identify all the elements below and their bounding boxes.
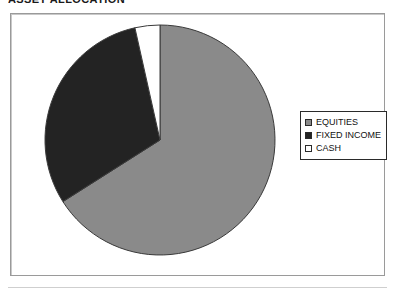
legend-swatch-equities: [305, 119, 312, 126]
legend-item-cash[interactable]: CASH: [305, 142, 381, 155]
legend-swatch-cash: [305, 145, 312, 152]
legend-label-cash: CASH: [316, 142, 341, 155]
chart-legend: EQUITIES FIXED INCOME CASH: [300, 111, 387, 160]
legend-item-equities[interactable]: EQUITIES: [305, 116, 381, 129]
legend-swatch-fixed-income: [305, 132, 312, 139]
pie-slices: [45, 25, 275, 255]
bottom-separator: [8, 287, 387, 288]
legend-item-fixed-income[interactable]: FIXED INCOME: [305, 129, 381, 142]
legend-label-equities: EQUITIES: [316, 116, 358, 129]
legend-label-fixed-income: FIXED INCOME: [316, 129, 381, 142]
